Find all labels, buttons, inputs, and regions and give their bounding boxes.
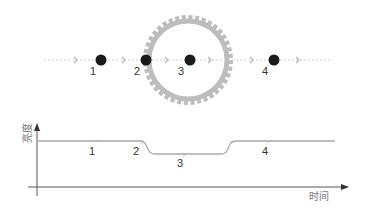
curve-label-2: 2 xyxy=(133,145,139,157)
planet-dot-2 xyxy=(141,55,152,66)
orbit-label-2: 2 xyxy=(134,65,140,77)
curve-label-4: 4 xyxy=(262,145,268,157)
planet-positions xyxy=(96,55,280,66)
light-curve xyxy=(37,141,335,154)
curve-label-3: 3 xyxy=(177,157,183,169)
y-axis-label: 亮度 xyxy=(21,123,33,143)
planet-dot-4 xyxy=(269,55,280,66)
orbit-label-3: 3 xyxy=(178,65,184,77)
y-axis-arrow-icon xyxy=(34,123,40,131)
x-axis-arrow-icon xyxy=(341,184,349,190)
planet-dot-3 xyxy=(185,55,196,66)
light-curve-axes xyxy=(28,123,349,196)
curve-label-1: 1 xyxy=(89,145,95,157)
planet-dot-1 xyxy=(96,55,107,66)
orbit-label-4: 4 xyxy=(262,65,268,77)
x-axis-label: 时间 xyxy=(309,190,329,202)
orbit-label-1: 1 xyxy=(90,65,96,77)
transit-diagram: 1 2 3 4 1 2 3 4 亮度 时间 xyxy=(0,0,368,221)
